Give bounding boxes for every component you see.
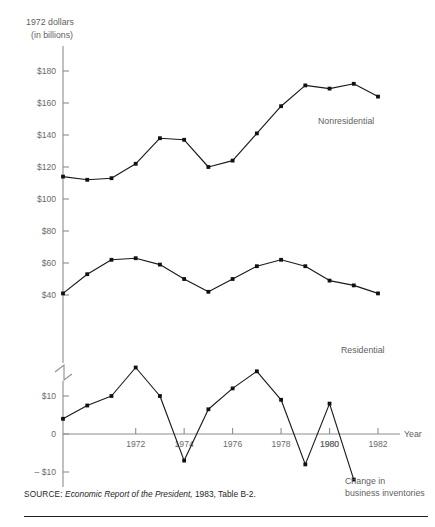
- data-point: [158, 263, 162, 267]
- data-point: [110, 394, 114, 398]
- data-point: [231, 387, 235, 391]
- y-tick-label-upper: $180: [37, 66, 56, 76]
- series-line-residential: [63, 258, 378, 293]
- data-point: [303, 463, 307, 467]
- x-tick-label-1980-note: 1980: [320, 439, 339, 449]
- series-label-residential: Residential: [341, 345, 385, 355]
- y-tick-label-upper: $100: [37, 194, 56, 204]
- data-point: [206, 290, 210, 294]
- y-tick-label-upper: $140: [37, 130, 56, 140]
- data-point: [328, 87, 332, 91]
- y-tick-label-lower: $10: [42, 391, 57, 401]
- data-point: [231, 277, 235, 281]
- data-point: [134, 162, 138, 166]
- x-tick-label: 1978: [272, 439, 291, 449]
- data-point: [206, 165, 210, 169]
- data-point: [61, 417, 65, 421]
- y-tick-label-upper: $60: [42, 258, 57, 268]
- series-label-inventories-line1: Change in: [345, 476, 385, 486]
- data-point: [206, 407, 210, 411]
- investment-line-chart: $180$160$140$120$100$80$60$40$100– $10Ye…: [0, 0, 435, 527]
- data-point: [376, 95, 380, 99]
- source-rest: 1983, Table B-2.: [193, 489, 256, 499]
- data-point: [303, 84, 307, 88]
- axis-break-icon: [55, 365, 72, 380]
- y-tick-label-upper: $40: [42, 290, 57, 300]
- data-point: [134, 256, 138, 260]
- y-axis-title-line2: (in billions): [31, 30, 73, 40]
- bottom-divider: [24, 516, 428, 517]
- data-point: [255, 132, 259, 136]
- series-label-nonresidential: Nonresidential: [318, 116, 374, 126]
- x-tick-label: 1972: [126, 439, 145, 449]
- data-point: [85, 272, 89, 276]
- data-point: [231, 159, 235, 163]
- y-tick-label-upper: $80: [42, 226, 57, 236]
- data-point: [182, 138, 186, 142]
- data-point: [255, 369, 259, 373]
- data-point: [352, 82, 356, 86]
- data-point: [328, 279, 332, 283]
- x-axis-title: Year: [404, 429, 422, 439]
- data-point: [255, 264, 259, 268]
- data-point: [376, 292, 380, 296]
- data-point: [182, 277, 186, 281]
- y-tick-label-lower: – $10: [34, 467, 56, 477]
- data-point: [85, 404, 89, 408]
- y-tick-label-upper: $160: [37, 98, 56, 108]
- data-point: [182, 459, 186, 463]
- data-point: [110, 176, 114, 180]
- y-tick-label-lower: 0: [51, 429, 56, 439]
- y-axis-title-line1: 1972 dollars: [26, 17, 75, 27]
- data-point: [85, 178, 89, 182]
- y-tick-label-upper: $120: [37, 162, 56, 172]
- x-tick-label: 1976: [223, 439, 242, 449]
- source-title: Economic Report of the President,: [65, 489, 193, 499]
- data-point: [328, 402, 332, 406]
- data-point: [279, 398, 283, 402]
- data-point: [110, 258, 114, 262]
- source-note: SOURCE: Economic Report of the President…: [24, 489, 424, 500]
- data-point: [61, 292, 65, 296]
- data-point: [158, 136, 162, 140]
- data-point: [279, 104, 283, 108]
- data-point: [158, 394, 162, 398]
- data-point: [61, 175, 65, 179]
- series-line-change: [63, 368, 354, 480]
- x-tick-label: 1982: [368, 439, 387, 449]
- data-point: [279, 258, 283, 262]
- data-point: [303, 264, 307, 268]
- data-point: [134, 366, 138, 370]
- chart-container: $180$160$140$120$100$80$60$40$100– $10Ye…: [0, 0, 435, 527]
- series-line-nonresidential: [63, 84, 378, 180]
- data-point: [352, 284, 356, 288]
- source-keyword: SOURCE:: [24, 490, 63, 499]
